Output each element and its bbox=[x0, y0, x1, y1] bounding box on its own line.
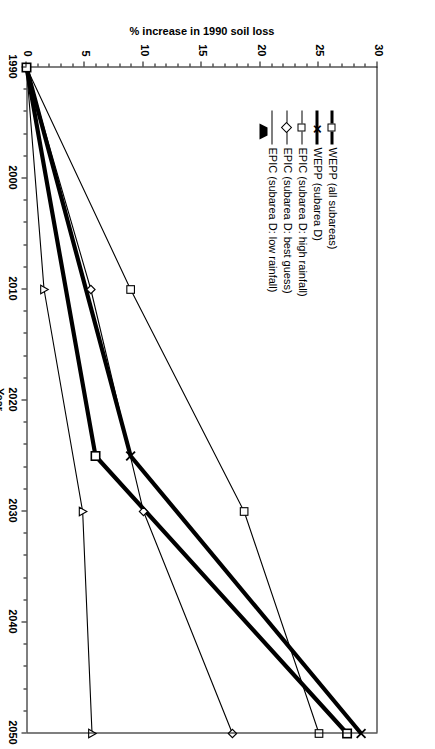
x-tick bbox=[21, 621, 26, 622]
y-minor-tick bbox=[329, 63, 330, 66]
plot-frame-right bbox=[26, 732, 377, 733]
x-minor-tick bbox=[23, 443, 26, 444]
y-minor-tick bbox=[306, 63, 307, 66]
y-minor-tick bbox=[130, 63, 131, 66]
y-tick bbox=[201, 61, 202, 66]
legend-item[interactable]: EPIC (subarea D: best guess) bbox=[279, 110, 294, 296]
x-tick bbox=[21, 288, 26, 289]
legend: WEPP (all subareas)✕WEPP (subarea D)EPIC… bbox=[264, 110, 339, 296]
y-tick bbox=[142, 61, 143, 66]
y-tick bbox=[259, 61, 260, 66]
legend-item-label: WEPP (all subareas) bbox=[324, 147, 339, 249]
y-minor-tick bbox=[37, 63, 38, 66]
x-minor-tick bbox=[23, 110, 26, 111]
x-minor-tick bbox=[23, 688, 26, 689]
x-minor-tick bbox=[23, 577, 26, 578]
legend-swatch-square-icon bbox=[325, 110, 339, 144]
y-minor-tick bbox=[294, 63, 295, 66]
data-point-square bbox=[126, 285, 134, 293]
x-axis-title: Year bbox=[0, 66, 5, 732]
y-minor-tick bbox=[224, 63, 225, 66]
x-minor-tick bbox=[23, 421, 26, 422]
x-tick bbox=[21, 732, 26, 733]
y-minor-tick bbox=[247, 63, 248, 66]
x-minor-tick bbox=[23, 532, 26, 533]
y-minor-tick bbox=[165, 63, 166, 66]
x-tick-label: 2040 bbox=[6, 599, 18, 643]
x-minor-tick bbox=[23, 88, 26, 89]
legend-item[interactable]: EPIC (subarea D: high rainfall) bbox=[294, 110, 309, 296]
x-minor-tick bbox=[23, 332, 26, 333]
y-minor-tick bbox=[271, 63, 272, 66]
x-tick-label: 1990 bbox=[6, 44, 18, 88]
x-minor-tick bbox=[23, 266, 26, 267]
legend-swatch-x-icon: ✕ bbox=[310, 110, 324, 144]
x-minor-tick bbox=[23, 310, 26, 311]
y-minor-tick bbox=[107, 63, 108, 66]
y-minor-tick bbox=[154, 63, 155, 66]
legend-item[interactable]: WEPP (all subareas) bbox=[324, 110, 339, 296]
y-minor-tick bbox=[189, 63, 190, 66]
y-minor-tick bbox=[282, 63, 283, 66]
series-line-4 bbox=[26, 67, 92, 733]
legend-swatch-triangle-icon bbox=[265, 110, 279, 144]
y-minor-tick bbox=[60, 63, 61, 66]
y-minor-tick bbox=[177, 63, 178, 66]
y-minor-tick bbox=[212, 63, 213, 66]
x-tick-label: 2010 bbox=[6, 266, 18, 310]
y-axis-title: % increase in 1990 soil loss bbox=[26, 24, 377, 36]
x-tick bbox=[21, 177, 26, 178]
legend-swatch-square-icon bbox=[295, 110, 309, 144]
y-minor-tick bbox=[48, 63, 49, 66]
x-minor-tick bbox=[23, 244, 26, 245]
legend-item-label: EPIC (subarea D: best guess) bbox=[279, 147, 294, 293]
plot-frame-top bbox=[376, 66, 377, 732]
y-tick bbox=[318, 61, 319, 66]
x-minor-tick bbox=[23, 710, 26, 711]
chart-stage: 1990200020102020203020402050 05101520253… bbox=[0, 0, 435, 749]
series-line-3 bbox=[26, 67, 232, 733]
y-minor-tick bbox=[364, 63, 365, 66]
y-minor-tick bbox=[119, 63, 120, 66]
x-minor-tick bbox=[23, 377, 26, 378]
legend-swatch-diamond-icon bbox=[280, 110, 294, 144]
x-tick-label: 2020 bbox=[6, 377, 18, 421]
x-tick bbox=[21, 510, 26, 511]
legend-item[interactable]: EPIC (subarea D: low rainfall) bbox=[264, 110, 279, 296]
x-minor-tick bbox=[23, 133, 26, 134]
data-point-square bbox=[91, 451, 99, 459]
y-minor-tick bbox=[72, 63, 73, 66]
y-tick bbox=[25, 61, 26, 66]
y-minor-tick bbox=[341, 63, 342, 66]
x-minor-tick bbox=[23, 599, 26, 600]
y-tick bbox=[84, 61, 85, 66]
x-minor-tick bbox=[23, 488, 26, 489]
x-minor-tick bbox=[23, 199, 26, 200]
x-minor-tick bbox=[23, 466, 26, 467]
y-tick bbox=[376, 61, 377, 66]
data-point-square bbox=[240, 507, 248, 515]
x-minor-tick bbox=[23, 355, 26, 356]
x-tick bbox=[21, 399, 26, 400]
x-minor-tick bbox=[23, 221, 26, 222]
legend-item-label: EPIC (subarea D: high rainfall) bbox=[294, 147, 309, 296]
x-tick-label: 2030 bbox=[6, 488, 18, 532]
y-minor-tick bbox=[95, 63, 96, 66]
x-tick-label: 2000 bbox=[6, 155, 18, 199]
x-minor-tick bbox=[23, 643, 26, 644]
y-minor-tick bbox=[236, 63, 237, 66]
x-minor-tick bbox=[23, 155, 26, 156]
x-tick-label: 2050 bbox=[6, 710, 18, 749]
legend-item[interactable]: ✕WEPP (subarea D) bbox=[309, 110, 324, 296]
x-minor-tick bbox=[23, 665, 26, 666]
x-minor-tick bbox=[23, 554, 26, 555]
legend-item-label: EPIC (subarea D: low rainfall) bbox=[264, 147, 279, 292]
legend-item-label: WEPP (subarea D) bbox=[309, 147, 324, 240]
y-minor-tick bbox=[353, 63, 354, 66]
